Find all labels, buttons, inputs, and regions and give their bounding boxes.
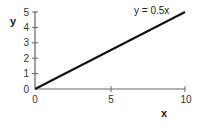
y-tick-label: 5	[23, 7, 29, 18]
x-tick-label: 0	[32, 94, 38, 105]
y-tick-label: 0	[23, 84, 29, 95]
x-tick-label: 5	[108, 94, 114, 105]
y-tick-label: 2	[23, 53, 29, 64]
y-tick-label: 4	[23, 22, 29, 33]
line-label: y = 0.5x	[134, 5, 169, 16]
y-tick-label: 3	[23, 37, 29, 48]
x-tick-label: 10	[180, 94, 192, 105]
line-chart: 5 4 3 2 1 0 y 0 5 10 x y = 0.5x	[0, 0, 199, 128]
x-axis-title: x	[161, 107, 168, 119]
y-tick-label: 1	[23, 68, 29, 79]
y-axis-title: y	[10, 15, 17, 27]
data-line	[35, 12, 185, 89]
